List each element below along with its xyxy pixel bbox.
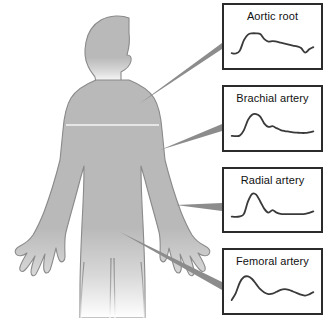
waveform-trace-brachial-artery: [224, 87, 321, 150]
head-profile-shape: [85, 16, 131, 83]
panel-radial-artery[interactable]: Radial artery: [222, 167, 323, 233]
human-body-silhouette: [15, 16, 210, 318]
panel-aortic-root[interactable]: Aortic root: [222, 3, 323, 70]
connector-radial-artery: [176, 203, 222, 211]
panel-femoral-artery[interactable]: Femoral artery: [222, 248, 323, 315]
torso-and-arms-shape: [15, 80, 210, 318]
waveform-trace-aortic-root: [224, 5, 321, 68]
connector-brachial-artery: [160, 124, 222, 150]
arterial-waveform-figure: Aortic root Brachial artery Radial arter…: [0, 0, 333, 318]
panel-brachial-artery[interactable]: Brachial artery: [222, 85, 323, 152]
waveform-trace-femoral-artery: [224, 250, 321, 313]
waveform-trace-radial-artery: [224, 169, 321, 231]
